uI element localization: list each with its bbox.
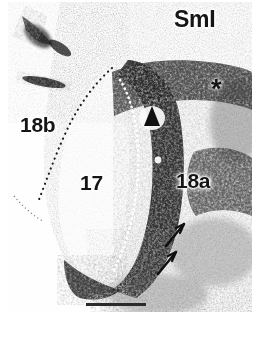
autoradiograph-image	[8, 2, 252, 312]
asterisk-marker: *	[211, 76, 222, 103]
micrograph-panel: SmI 18b 17 18a *	[8, 2, 252, 312]
figure-caption-fragment	[0, 326, 265, 340]
scale-bar	[86, 303, 146, 306]
label-17: 17	[80, 172, 103, 193]
label-18a: 18a	[176, 170, 210, 191]
figure-root: SmI 18b 17 18a *	[0, 0, 265, 340]
label-18b: 18b	[20, 114, 55, 135]
arrowhead-marker	[139, 106, 165, 130]
label-smi: SmI	[174, 8, 215, 31]
